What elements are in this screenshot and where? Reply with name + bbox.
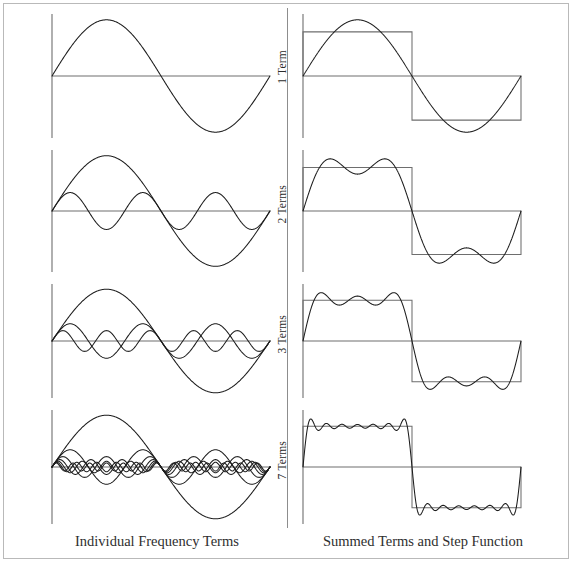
row-label-2-terms: 2 Terms [276, 185, 288, 223]
right-panel-caption: Summed Terms and Step Function [323, 533, 523, 550]
left-panel-caption: Individual Frequency Terms [75, 533, 239, 550]
row-label-1-terms: 1 Term [276, 50, 288, 84]
row-label-7-terms: 7 Terms [276, 441, 288, 479]
row-label-3-terms: 3 Terms [276, 315, 288, 353]
